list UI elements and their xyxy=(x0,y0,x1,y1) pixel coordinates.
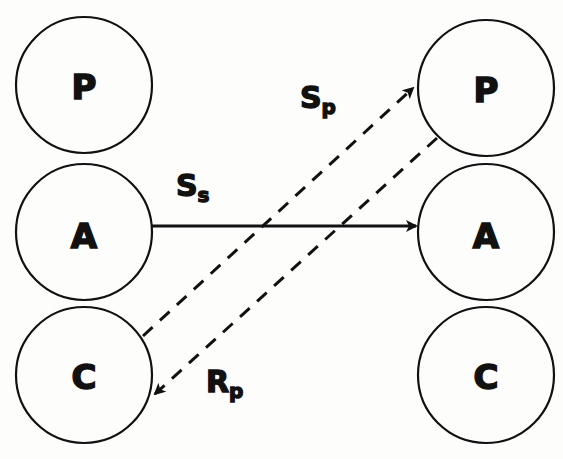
right-node-c: C xyxy=(418,307,554,443)
left-node-p: P xyxy=(16,17,152,153)
ss-label-sub: s xyxy=(198,183,210,207)
rp-label-main: R xyxy=(206,364,229,399)
rp-label-sub: p xyxy=(229,379,243,403)
protocol-diagram: P A C P A C Ss Sp xyxy=(0,0,563,459)
rp-label: Rp xyxy=(206,364,243,403)
right-node-a: A xyxy=(418,164,554,300)
right-c-label: C xyxy=(474,357,499,397)
left-stack: P A C xyxy=(16,17,152,443)
left-c-label: C xyxy=(72,357,97,397)
right-node-p: P xyxy=(418,20,554,156)
ss-label: Ss xyxy=(176,168,210,207)
sp-label-main: S xyxy=(300,80,322,115)
sp-arrow xyxy=(143,88,413,336)
right-a-label: A xyxy=(473,216,500,256)
ss-label-main: S xyxy=(176,168,198,203)
left-a-label: A xyxy=(71,216,98,256)
sp-label: Sp xyxy=(300,80,336,119)
sp-label-sub: p xyxy=(322,95,336,119)
right-stack: P A C xyxy=(418,20,554,443)
left-p-label: P xyxy=(72,67,97,107)
left-node-a: A xyxy=(16,164,152,300)
right-p-label: P xyxy=(474,70,499,110)
left-node-c: C xyxy=(16,307,152,443)
